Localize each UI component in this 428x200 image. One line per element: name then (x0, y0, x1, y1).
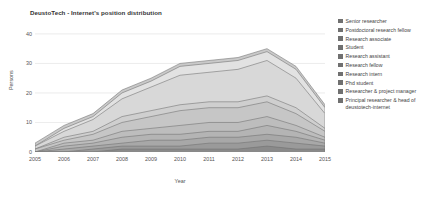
legend-item[interactable]: Research assistant (338, 53, 426, 59)
legend-item[interactable]: Researcher & project manager (338, 88, 426, 94)
y-tick-label: 0 (29, 149, 32, 155)
legend-swatch-icon (338, 36, 343, 41)
x-tick-label: 2011 (203, 156, 215, 162)
stacked-areas-group (35, 49, 325, 152)
y-tick-label: 30 (26, 60, 32, 66)
legend-item-label: Researcher & project manager (346, 88, 417, 94)
x-tick-label: 2010 (174, 156, 186, 162)
x-tick-label: 2013 (261, 156, 273, 162)
x-tick-label: 2005 (29, 156, 41, 162)
legend-item[interactable]: Student (338, 44, 426, 50)
legend-swatch-icon (338, 63, 343, 68)
legend-item-label: Research associate (346, 36, 392, 42)
legend-swatch-icon (338, 72, 343, 77)
legend-item[interactable]: Research fellow (338, 62, 426, 68)
legend-item-label: Postdoctoral research fellow (346, 27, 411, 33)
area-chart-widget: DeustoTech - Internet's position distrib… (0, 0, 428, 200)
legend-item[interactable]: Postdoctoral research fellow (338, 27, 426, 33)
chart-legend: Senior researcherPostdoctoral research f… (338, 18, 426, 112)
legend-item-label: Phd student (346, 80, 374, 86)
plot-area: 010203040 200520062007200820092010201120… (35, 28, 325, 152)
legend-item[interactable]: Research associate (338, 36, 426, 42)
legend-item[interactable]: Principal researcher & head of deustotec… (338, 97, 426, 110)
legend-swatch-icon (338, 98, 343, 103)
chart-title: DeustoTech - Internet's position distrib… (30, 9, 162, 16)
y-tick-label: 20 (26, 90, 32, 96)
x-tick-label: 2006 (58, 156, 70, 162)
x-tick-label: 2007 (87, 156, 99, 162)
plot-svg (35, 28, 325, 152)
y-tick-label: 40 (26, 31, 32, 37)
x-axis-title: Year (175, 178, 186, 184)
x-tick-label: 2015 (319, 156, 331, 162)
legend-item-label: Research assistant (346, 53, 390, 59)
legend-item-label: Principal researcher & head of deustotec… (346, 97, 426, 110)
legend-swatch-icon (338, 80, 343, 85)
legend-item-label: Research intern (346, 71, 383, 77)
legend-swatch-icon (338, 45, 343, 50)
legend-item-label: Student (346, 44, 364, 50)
legend-item[interactable]: Research intern (338, 71, 426, 77)
legend-swatch-icon (338, 54, 343, 59)
x-tick-label: 2009 (145, 156, 157, 162)
legend-item-label: Senior researcher (346, 18, 387, 24)
legend-item[interactable]: Phd student (338, 80, 426, 86)
legend-swatch-icon (338, 28, 343, 33)
y-axis-title: Persons (8, 70, 14, 90)
x-tick-label: 2008 (116, 156, 128, 162)
y-tick-label: 10 (26, 119, 32, 125)
x-tick-label: 2014 (290, 156, 302, 162)
legend-swatch-icon (338, 19, 343, 24)
x-tick-label: 2012 (232, 156, 244, 162)
legend-item-label: Research fellow (346, 62, 383, 68)
legend-swatch-icon (338, 89, 343, 94)
legend-item[interactable]: Senior researcher (338, 18, 426, 24)
